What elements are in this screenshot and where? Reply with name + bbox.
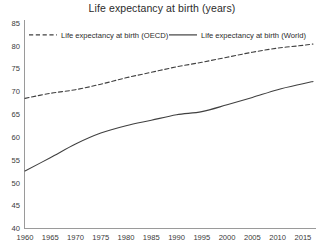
series-line-1 xyxy=(25,44,313,98)
y-tick-label: 50 xyxy=(12,179,20,188)
y-tick-label: 65 xyxy=(12,110,20,119)
x-tick-label: 2010 xyxy=(269,233,286,242)
series-line-2 xyxy=(25,81,313,171)
y-axis-tick-labels: 40455055606570758085 xyxy=(12,19,20,234)
chart-container: Life expectancy at birth (years) 4045505… xyxy=(0,0,324,248)
x-tick-label: 1970 xyxy=(67,233,84,242)
y-tick-label: 75 xyxy=(12,64,20,73)
legend-label-2: Life expectancy at birth (World) xyxy=(201,31,306,40)
x-tick-label: 1990 xyxy=(168,233,185,242)
y-tick-label: 55 xyxy=(12,156,20,165)
chart-axes xyxy=(25,20,317,229)
x-tick-label: 1975 xyxy=(92,233,109,242)
x-tick-label: 2000 xyxy=(219,233,236,242)
y-tick-label: 85 xyxy=(12,19,20,28)
y-tick-label: 45 xyxy=(12,201,20,210)
x-tick-label: 1985 xyxy=(143,233,160,242)
x-tick-label: 1960 xyxy=(17,233,34,242)
y-tick-label: 70 xyxy=(12,87,20,96)
x-tick-label: 1980 xyxy=(118,233,135,242)
legend-label-1: Life expectancy at birth (OECD) xyxy=(61,31,169,40)
x-axis-tick-labels: 1960196519701975198019851990199520002005… xyxy=(17,233,312,242)
chart-legend: Life expectancy at birth (OECD)Life expe… xyxy=(29,31,306,40)
chart-series-group xyxy=(25,44,313,171)
x-tick-label: 1965 xyxy=(42,233,59,242)
y-tick-label: 80 xyxy=(12,42,20,51)
x-tick-label: 2015 xyxy=(294,233,311,242)
y-tick-label: 60 xyxy=(12,133,20,142)
x-tick-label: 1995 xyxy=(193,233,210,242)
chart-plot-area: 40455055606570758085 1960196519701975198… xyxy=(0,0,324,248)
x-tick-label: 2005 xyxy=(244,233,261,242)
